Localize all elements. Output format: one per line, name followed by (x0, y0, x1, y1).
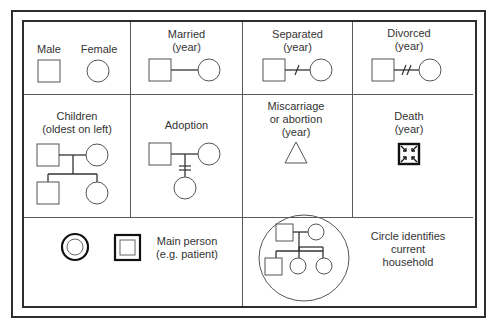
main-person-symbols (24, 218, 242, 304)
cell-household: Circle identifies current household (243, 218, 473, 304)
circle-icon (290, 258, 306, 274)
household-label: Circle identifies current household (363, 230, 453, 269)
cell-divorced: Divorced (year) (353, 22, 473, 94)
main-person-label: Main person (e.g. patient) (152, 235, 222, 261)
children-symbol (24, 95, 130, 217)
death-symbol (353, 95, 473, 217)
circle-icon (174, 177, 196, 199)
square-icon (37, 182, 59, 204)
circle-icon (419, 59, 441, 81)
cell-adoption: Adoption (131, 95, 242, 217)
cell-separated: Separated (year) (243, 22, 352, 94)
double-circle-icon (62, 234, 88, 260)
male-female-symbols (24, 22, 130, 94)
triangle-icon (285, 142, 307, 163)
circle-icon (86, 182, 108, 204)
separated-symbol (243, 22, 352, 94)
square-icon (37, 144, 59, 166)
married-symbol (131, 22, 242, 94)
square-icon (276, 224, 293, 241)
divorced-symbol (353, 22, 473, 94)
double-square-icon (115, 235, 140, 260)
cell-main-person: Main person (e.g. patient) (24, 218, 242, 304)
cell-married: Married (year) (131, 22, 242, 94)
square-icon (263, 59, 285, 81)
miscarriage-symbol (243, 95, 352, 217)
circle-icon (198, 143, 220, 165)
square-icon (372, 59, 394, 81)
square-icon (149, 143, 171, 165)
cell-death: Death (year) (353, 95, 473, 217)
circle-icon (86, 144, 108, 166)
circle-icon (316, 258, 332, 274)
square-icon (38, 60, 60, 82)
circle-icon (198, 59, 220, 81)
square-icon (149, 59, 171, 81)
square-icon (265, 258, 282, 275)
cell-male-female: Male Female (24, 22, 130, 94)
cell-miscarriage: Miscarriage or abortion (year) (243, 95, 352, 217)
cell-children: Children (oldest on left) (24, 95, 130, 217)
adoption-symbol (131, 95, 242, 217)
circle-icon (87, 60, 109, 82)
circle-icon (310, 59, 332, 81)
circle-icon (308, 224, 324, 240)
